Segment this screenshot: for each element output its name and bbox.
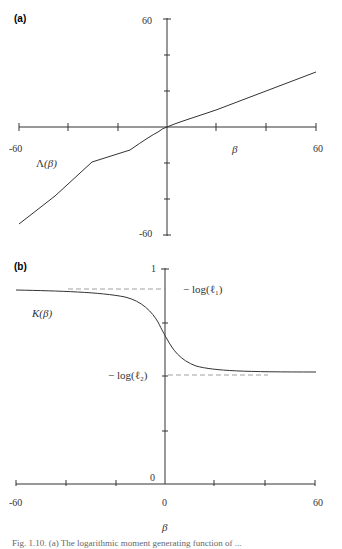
panel-b-x-center-label: 0 [162,497,167,508]
panel-a-x-left-label: -60 [9,143,22,154]
panel-b-label: (b) [14,261,27,272]
panel-b-y-bottom-label: 0 [150,472,155,483]
panel-a-curve-label: Λ(β) [36,157,57,170]
panel-a-x-axis-title: β [231,143,238,155]
panel-b-upper-asymptote-label: − log(ℓ₁) [183,283,223,296]
panel-b-x-right-label: 60 [313,497,323,508]
panel-a: (a) 60 -60 -60 60 β Λ(β) [9,13,323,239]
panel-b-y-top-label: 1 [151,263,156,274]
panel-a-label: (a) [14,13,26,24]
panel-b-curve-label: K(β) [31,307,52,320]
panel-b: (b) 1 0 -60 0 60 β K(β) − log(ℓ₁) [9,261,323,533]
panel-a-x-right-label: 60 [313,143,323,154]
panel-a-y-top-label: 60 [142,15,152,26]
panel-a-y-bottom-label: -60 [139,228,152,239]
panel-b-lower-asymptote-label: − log(ℓ₂) [108,369,148,382]
panel-b-x-axis-title: β [161,521,168,533]
panel-b-k-curve [16,290,316,372]
figure: (a) 60 -60 -60 60 β Λ(β) [0,0,342,549]
panel-b-x-left-label: -60 [9,497,22,508]
figure-caption: Fig. 1.10. (a) The logarithmic moment ge… [12,538,242,548]
